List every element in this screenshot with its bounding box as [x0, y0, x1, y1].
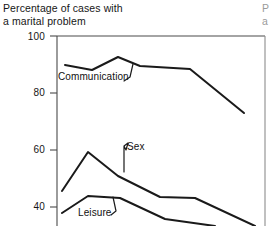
plot-area [0, 0, 280, 226]
series-label-communication: Communication [58, 71, 129, 82]
series-label-sex: Sex [127, 141, 145, 152]
marital-problem-line-chart: Percentage of cases with a marital probl… [0, 0, 280, 226]
y-axis-ticks [50, 36, 57, 207]
series-label-leisure: Leisure [78, 207, 112, 218]
series-line-communication [65, 57, 244, 113]
